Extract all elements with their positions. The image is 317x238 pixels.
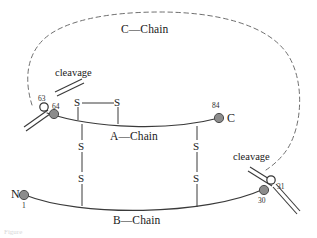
residue-node-31-open — [267, 176, 275, 184]
cleavage-label-right: cleavage — [233, 152, 270, 163]
c-chain-label: C—Chain — [121, 24, 168, 36]
figure-caption: Figure — [4, 229, 22, 236]
residue-node-84-filled — [214, 113, 223, 122]
cleavage-label-left: cleavage — [55, 68, 92, 79]
c-terminus-label: C — [227, 112, 235, 124]
cleavage-mark-left-upper — [55, 79, 84, 96]
b-chain-label: B—Chain — [113, 215, 160, 227]
residue-number-30: 30 — [258, 197, 266, 205]
residue-number-64: 64 — [52, 103, 60, 111]
sulfur-label-left-top: S — [78, 141, 84, 152]
c-terminus-residue-number: 84 — [212, 102, 220, 110]
n-terminus-label: N — [11, 188, 20, 200]
figure-canvas: C—Chain A—Chain B—Chain S S S S S S N 1 … — [0, 0, 317, 238]
residue-node-30-filled — [259, 185, 268, 194]
cleavage-mark-left-lower — [24, 110, 50, 131]
residue-node-63-open — [40, 103, 48, 111]
n-terminus-residue-number: 1 — [22, 202, 26, 210]
sulfur-label-right-bottom: S — [193, 173, 199, 184]
a-chain-backbone — [47, 113, 219, 127]
residue-number-31: 31 — [277, 183, 285, 191]
sulfur-label-left-bottom: S — [78, 173, 84, 184]
a-chain-label: A—Chain — [110, 131, 158, 143]
residue-node-1-filled — [19, 190, 28, 199]
sulfur-label-right-top: S — [193, 141, 199, 152]
proinsulin-diagram-svg — [0, 0, 317, 238]
b-chain-backbone — [25, 189, 264, 210]
residue-number-63: 63 — [38, 95, 46, 103]
sulfur-label-a-left: S — [74, 97, 80, 108]
sulfur-label-a-right: S — [114, 97, 120, 108]
